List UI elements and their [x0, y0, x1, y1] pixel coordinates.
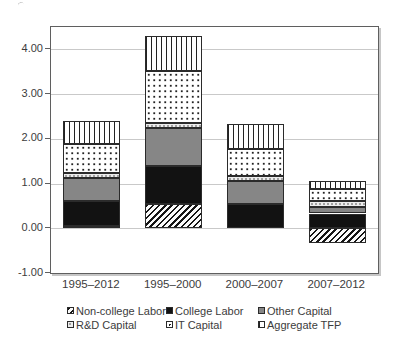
y-tick-label: 1.00 [5, 176, 43, 189]
bar-segment [63, 173, 120, 178]
stray-mark [17, 1, 24, 8]
gridline-3 [51, 94, 378, 95]
bar-segment [145, 204, 202, 229]
bar-segment [145, 166, 202, 204]
bar-segment [63, 121, 120, 144]
legend-label: Non-college Labor [76, 305, 166, 317]
diagonal-hatch-swatch-icon [67, 307, 74, 314]
bar-segment [63, 178, 120, 201]
y-tick-label: 4.00 [5, 42, 43, 55]
light-dots-swatch-icon [67, 321, 74, 328]
x-category-label: 2000–2007 [214, 278, 296, 290]
x-category-label: 1995–2000 [132, 278, 214, 290]
y-tick-mark [45, 272, 50, 273]
x-category-label: 2007–2012 [295, 278, 377, 290]
legend-label: R&D Capital [76, 319, 137, 331]
vertical-lines-swatch-icon [258, 321, 265, 328]
bar-segment [145, 123, 202, 128]
legend: Non-college LaborCollege LaborOther Capi… [67, 304, 388, 331]
legend-label: IT Capital [175, 319, 222, 331]
gridline-4 [51, 49, 378, 50]
y-tick-label: 3.00 [5, 87, 43, 100]
bar-segment [63, 201, 120, 226]
legend-label: College Labor [175, 305, 244, 317]
solid-black-swatch-icon [166, 307, 173, 314]
x-category-label: 1995–2012 [50, 278, 132, 290]
y-tick-label: 0.00 [5, 221, 43, 234]
solid-gray-swatch-icon [258, 307, 265, 314]
y-tick-mark [45, 93, 50, 94]
legend-label: Other Capital [267, 305, 332, 317]
bar-segment [309, 228, 366, 243]
legend-item: Non-college Labor [67, 304, 166, 317]
legend-item: Aggregate TFP [258, 318, 388, 331]
bar-segment [309, 207, 366, 214]
dots-swatch-icon [166, 321, 173, 328]
bar-segment [309, 214, 366, 229]
legend-item: College Labor [166, 304, 258, 317]
bar-segment [227, 149, 284, 176]
y-tick-mark [45, 138, 50, 139]
bar-segment [309, 201, 366, 207]
y-tick-mark [45, 227, 50, 228]
legend-label: Aggregate TFP [267, 319, 341, 331]
bar-segment [63, 144, 120, 173]
legend-item: R&D Capital [67, 318, 166, 331]
bar-segment [145, 128, 202, 166]
bar-segment [145, 71, 202, 122]
bar-segment [227, 181, 284, 204]
y-tick-mark [45, 48, 50, 49]
bar-segment [145, 36, 202, 72]
y-tick-label: -1.00 [5, 266, 43, 279]
bar-segment [309, 189, 366, 200]
chart-canvas: 4.003.002.001.000.00-1.00 1995–20121995–… [0, 0, 393, 348]
plot-area [50, 26, 379, 274]
bar-segment [227, 124, 284, 149]
y-tick-mark [45, 183, 50, 184]
bar-segment [227, 204, 284, 229]
bar-segment [227, 176, 284, 181]
legend-item: Other Capital [258, 304, 388, 317]
legend-item: IT Capital [166, 318, 258, 331]
y-tick-label: 2.00 [5, 131, 43, 144]
bar-segment [309, 181, 366, 189]
bar-segment [63, 226, 120, 228]
